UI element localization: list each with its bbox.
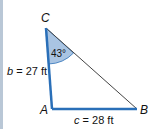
side-c-value: = 28 ft	[80, 114, 114, 126]
triangle-diagram: C A B 43° b = 27 ft c = 28 ft	[0, 0, 158, 129]
side-a	[46, 28, 137, 109]
vertex-b-label: B	[140, 103, 148, 117]
vertex-a-label: A	[39, 103, 48, 117]
side-c-label: c = 28 ft	[74, 114, 113, 126]
side-b-value: = 27 ft	[13, 65, 47, 77]
side-b-label: b = 27 ft	[7, 65, 47, 77]
vertex-c-label: C	[41, 11, 50, 25]
angle-c-label: 43°	[51, 48, 66, 59]
